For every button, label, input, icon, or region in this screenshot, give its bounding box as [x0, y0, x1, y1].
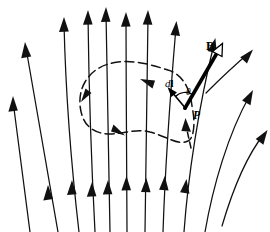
field-line [141, 10, 152, 232]
amperian-loop [80, 62, 194, 143]
field-line [222, 130, 268, 226]
dl-label-l: l [171, 77, 174, 89]
loop-direction-arrow-right [181, 118, 191, 132]
field-line [8, 96, 30, 232]
field-line [121, 12, 131, 232]
point-p-marker [183, 107, 186, 110]
field-line [101, 7, 113, 232]
figure-canvas [0, 0, 270, 232]
theta-label: θ [186, 88, 191, 98]
magnetic-field-loop-figure: B dl θ P [0, 0, 270, 232]
amperian-loop-group [80, 62, 194, 148]
field-line [205, 90, 253, 232]
point-p-label: P [193, 110, 200, 122]
field-line [59, 17, 79, 232]
field-lines-group [8, 7, 267, 232]
b-field-vector [185, 44, 223, 110]
dl-label: dl [165, 78, 174, 89]
b-field-label: B [206, 40, 214, 53]
field-line [206, 50, 253, 94]
field-line [159, 21, 180, 232]
